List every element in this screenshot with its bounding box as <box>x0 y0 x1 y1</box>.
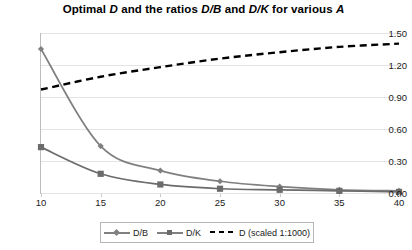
x-axis-tick-mark <box>41 194 42 197</box>
line-diamond-icon <box>104 228 130 237</box>
data-point-marker <box>98 171 104 177</box>
series-line-d-b <box>41 49 399 191</box>
legend-label-d-scaled: D (scaled 1:1000) <box>239 228 310 238</box>
series-line-d-k <box>41 147 399 192</box>
x-axis-tick-label: 25 <box>205 197 235 208</box>
legend-label-db: D/B <box>133 228 148 238</box>
x-axis-tick-mark <box>280 194 281 197</box>
data-point-marker <box>217 186 223 192</box>
line-square-icon <box>157 228 183 237</box>
chart-legend: D/B D/K D (scaled 1:1000) <box>100 222 314 243</box>
y-axis-tick-label: 0.90 <box>371 92 407 103</box>
x-axis-tick-label: 35 <box>324 197 354 208</box>
legend-label-dk: D/K <box>186 228 201 238</box>
x-axis-tick-label: 15 <box>86 197 116 208</box>
x-axis-tick-label: 30 <box>265 197 295 208</box>
data-point-marker <box>38 144 44 150</box>
chart-title: Optimal D and the ratios D/B and D/K for… <box>0 3 407 15</box>
x-axis-tick-mark <box>220 194 221 197</box>
y-axis-tick-label: 0.30 <box>371 156 407 167</box>
x-axis-tick-mark <box>160 194 161 197</box>
y-axis-tick-label: 0.60 <box>371 124 407 135</box>
legend-item-db[interactable]: D/B <box>104 228 148 238</box>
data-point-marker <box>217 178 223 184</box>
x-axis-tick-label: 20 <box>145 197 175 208</box>
x-axis-tick-label: 40 <box>384 197 412 208</box>
x-axis-tick-mark <box>399 194 400 197</box>
data-point-marker <box>157 181 163 187</box>
series-layer <box>41 33 399 193</box>
legend-item-d-scaled[interactable]: D (scaled 1:1000) <box>210 228 310 238</box>
dashed-line-icon <box>210 228 236 237</box>
x-axis-tick-mark <box>339 194 340 197</box>
data-point-marker <box>157 168 163 174</box>
data-point-marker <box>277 187 283 193</box>
y-axis-tick-label: 1.20 <box>371 60 407 71</box>
legend-item-dk[interactable]: D/K <box>157 228 201 238</box>
series-line-d-scaled-1-1000- <box>41 44 399 90</box>
x-axis-tick-mark <box>101 194 102 197</box>
y-axis-tick-label: 1.50 <box>371 28 407 39</box>
x-axis-tick-label: 10 <box>26 197 56 208</box>
